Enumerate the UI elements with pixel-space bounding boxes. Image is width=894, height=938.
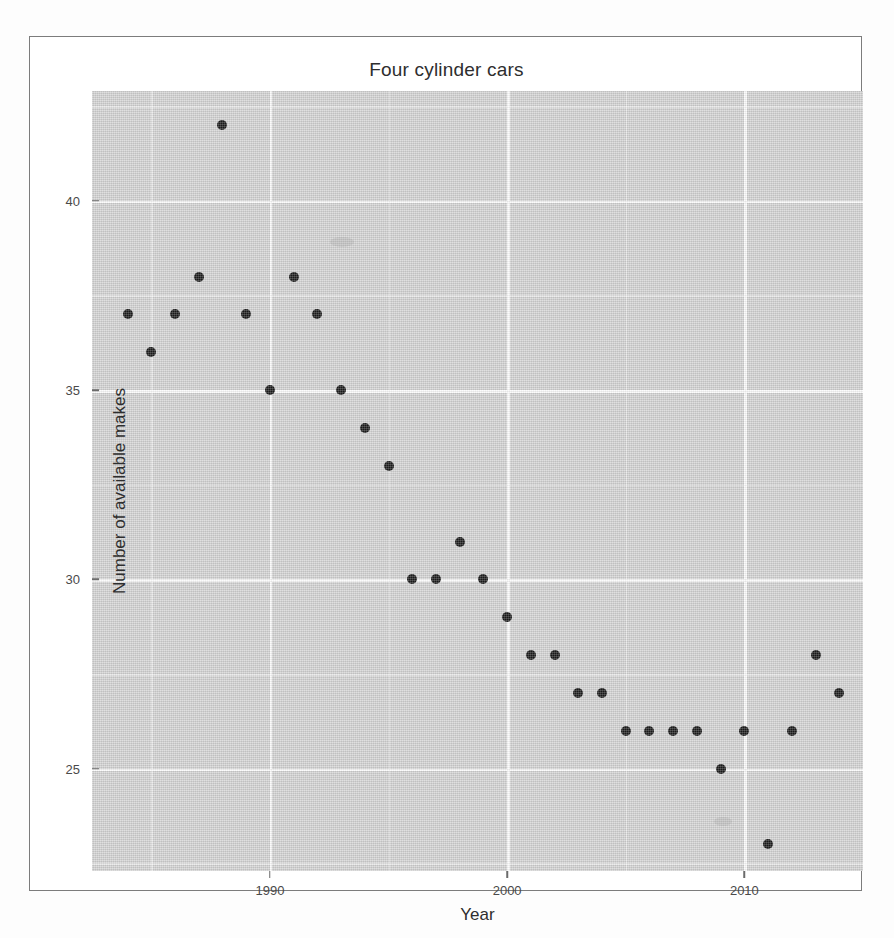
data-point <box>502 612 512 622</box>
data-point <box>431 574 441 584</box>
gridline-major-vertical <box>744 91 747 871</box>
data-point <box>692 726 702 736</box>
data-point <box>644 726 654 736</box>
data-point <box>336 385 346 395</box>
data-point <box>787 726 797 736</box>
data-point <box>834 688 844 698</box>
gridline-minor-vertical <box>389 91 391 871</box>
y-tick-mark <box>92 579 99 581</box>
gridline-minor-vertical <box>626 91 628 871</box>
data-point <box>573 688 583 698</box>
data-point <box>811 650 821 660</box>
x-tick-label: 2000 <box>493 883 522 898</box>
gridline-minor-horizontal <box>92 485 863 487</box>
plot-panel <box>92 91 863 871</box>
y-tick-mark <box>92 200 99 202</box>
data-point <box>265 385 275 395</box>
y-tick-label: 35 <box>66 383 80 398</box>
y-axis-title: Number of available makes <box>110 101 130 881</box>
gridline-minor-horizontal <box>92 863 863 865</box>
gridline-major-horizontal <box>92 769 863 772</box>
gridline-major-horizontal <box>92 390 863 393</box>
gridline-minor-horizontal <box>92 674 863 676</box>
x-tick-label: 2010 <box>730 883 759 898</box>
data-point <box>739 726 749 736</box>
data-point <box>194 272 204 282</box>
data-point <box>716 764 726 774</box>
scanned-page: Four cylinder cars 25303540 199020002010… <box>0 0 894 938</box>
data-point <box>407 574 417 584</box>
data-point <box>312 309 322 319</box>
gridline-minor-vertical <box>151 91 153 871</box>
data-point <box>478 574 488 584</box>
y-tick-label: 25 <box>66 761 80 776</box>
gridline-major-vertical <box>507 91 510 871</box>
gridline-major-horizontal <box>92 201 863 204</box>
data-point <box>597 688 607 698</box>
data-point <box>360 423 370 433</box>
data-point <box>526 650 536 660</box>
data-point <box>241 309 251 319</box>
scan-noise-overlay <box>92 91 863 871</box>
data-point <box>550 650 560 660</box>
y-axis-ticks: 25303540 <box>40 91 80 871</box>
y-tick-mark <box>92 389 99 391</box>
x-tick-mark <box>506 871 508 878</box>
x-tick-mark <box>269 871 271 878</box>
data-point <box>621 726 631 736</box>
data-point <box>763 839 773 849</box>
figure-frame: Four cylinder cars 25303540 199020002010… <box>29 36 862 891</box>
data-point <box>217 120 227 130</box>
chart-title: Four cylinder cars <box>30 59 863 81</box>
data-point <box>289 272 299 282</box>
data-point <box>170 309 180 319</box>
gridline-major-vertical <box>270 91 273 871</box>
data-point <box>146 347 156 357</box>
x-axis-title: Year <box>92 905 863 925</box>
y-tick-label: 30 <box>66 572 80 587</box>
gridline-minor-horizontal <box>92 106 863 108</box>
y-tick-mark <box>92 768 99 770</box>
gridline-minor-horizontal <box>92 295 863 297</box>
x-tick-label: 1990 <box>255 883 284 898</box>
data-point <box>384 461 394 471</box>
x-tick-mark <box>744 871 746 878</box>
y-tick-label: 40 <box>66 193 80 208</box>
data-point <box>455 537 465 547</box>
data-point <box>668 726 678 736</box>
scatter-chart: Four cylinder cars 25303540 199020002010… <box>30 37 863 892</box>
